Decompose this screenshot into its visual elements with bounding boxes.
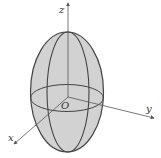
diagram-svg: z y x O	[0, 0, 161, 158]
ellipsoid-body	[31, 32, 104, 152]
z-axis-label: z	[58, 4, 65, 15]
ellipsoid-diagram: z y x O	[0, 0, 161, 158]
x-axis-label: x	[8, 132, 14, 143]
y-axis-label: y	[145, 103, 152, 114]
origin-label: O	[61, 100, 69, 111]
